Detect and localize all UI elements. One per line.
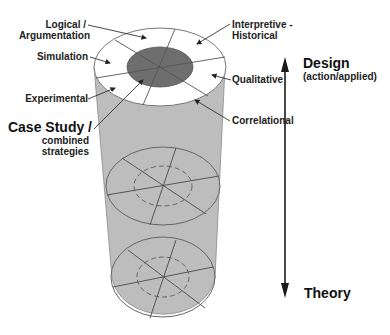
- arrow-up-icon: [281, 57, 289, 72]
- label-historical: Historical: [232, 30, 278, 41]
- label-design: Design: [303, 56, 350, 71]
- leader-interpretive: [197, 24, 230, 44]
- label-logical: Logical /: [45, 19, 86, 30]
- label-qualitative: Qualitative: [232, 74, 283, 85]
- label-theory: Theory: [304, 286, 351, 301]
- top-face: [94, 28, 226, 106]
- label-strategies: strategies: [42, 146, 89, 158]
- label-simulation: Simulation: [37, 51, 88, 62]
- label-correlational: Correlational: [232, 115, 294, 126]
- label-experimental: Experimental: [25, 93, 88, 104]
- design-theory-axis: [281, 57, 289, 298]
- label-argumentation: Argumentation: [19, 30, 90, 41]
- arrow-down-icon: [281, 283, 289, 298]
- label-action-applied: (action/applied): [303, 71, 377, 83]
- label-case-study: Case Study /: [8, 120, 92, 135]
- label-interpretive: Interpretive -: [232, 19, 293, 30]
